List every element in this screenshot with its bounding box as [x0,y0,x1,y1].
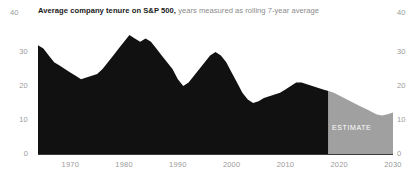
x-axis-tick-label: 1970 [50,160,90,169]
x-axis-tick-label: 2010 [265,160,305,169]
y-axis-tick-label: 20 [6,81,28,90]
x-axis-tick-label: 1990 [158,160,198,169]
area-series-actual [38,35,328,154]
chart-title-main: Average company tenure on S&P 500, [38,6,176,15]
y-axis-top-label-left: 40 [10,8,19,17]
x-axis-tick-label: 2030 [373,160,413,169]
y-axis-tick-label: 10 [397,115,419,124]
x-axis-tick-label: 2020 [319,160,359,169]
x-axis-tick-label: 1980 [104,160,144,169]
y-axis-tick-label: 30 [397,47,419,56]
x-axis-baseline [38,154,393,155]
chart-title-subtitle: years measured as rolling 7-year average [176,6,319,15]
chart-container: Average company tenure on S&P 500, years… [0,0,419,183]
y-axis-tick-label: 0 [6,149,28,158]
area-chart-svg [38,18,393,154]
y-axis-top-label-right: 40 [397,8,406,17]
estimate-region-label: ESTIMATE [332,124,371,131]
area-series-estimate [328,91,393,154]
y-axis-tick-label: 0 [397,149,419,158]
chart-plot-area [38,18,393,154]
chart-title: Average company tenure on S&P 500, years… [38,6,378,16]
y-axis-tick-label: 20 [397,81,419,90]
y-axis-tick-label: 30 [6,47,28,56]
y-axis-tick-label: 10 [6,115,28,124]
x-axis-tick-label: 2000 [212,160,252,169]
